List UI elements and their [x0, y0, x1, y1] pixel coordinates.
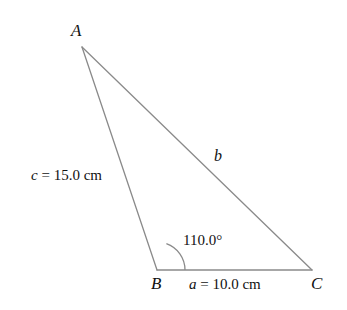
vertex-label-b: B	[151, 275, 161, 292]
side-label-c: c = 15.0 cm	[31, 168, 102, 183]
side-symbol-c: c	[31, 167, 38, 183]
triangle-figure: A B C c = 15.0 cm b a = 10.0 cm 110.0°	[0, 0, 347, 310]
vertex-label-c: C	[311, 275, 322, 292]
side-c-line-AB	[82, 47, 157, 270]
vertex-label-a: A	[71, 22, 81, 39]
triangle-drawing	[0, 0, 347, 310]
side-value-a: = 10.0 cm	[197, 276, 261, 292]
side-symbol-a: a	[189, 276, 197, 292]
angle-label-b: 110.0°	[183, 233, 222, 248]
side-label-b: b	[214, 148, 222, 164]
side-label-a: a = 10.0 cm	[189, 277, 261, 292]
side-value-c: = 15.0 cm	[38, 167, 102, 183]
